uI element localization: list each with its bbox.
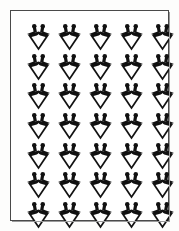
kite-diamond-ornament-icon: [57, 54, 82, 81]
kite-diamond-ornament-icon: [88, 24, 113, 51]
kite-diamond-ornament-icon: [150, 143, 175, 170]
kite-diamond-ornament-icon: [150, 83, 175, 110]
kite-diamond-ornament-icon: [26, 172, 51, 199]
motif-r4c5: [147, 112, 178, 142]
kite-diamond-ornament-icon: [57, 143, 82, 170]
motif-r7c2: [54, 200, 85, 230]
kite-diamond-ornament-icon: [88, 172, 113, 199]
kite-diamond-ornament-icon: [57, 24, 82, 51]
motif-r4c1: [23, 112, 54, 142]
kite-diamond-ornament-icon: [57, 202, 82, 229]
kite-diamond-ornament-icon: [88, 113, 113, 140]
kite-diamond-ornament-icon: [119, 143, 144, 170]
kite-diamond-ornament-icon: [26, 202, 51, 229]
motif-r2c1: [23, 53, 54, 83]
motif-r3c2: [54, 82, 85, 112]
motif-r5c5: [147, 141, 178, 171]
kite-diamond-ornament-icon: [26, 83, 51, 110]
plate-border: [10, 10, 169, 221]
motif-r6c3: [85, 171, 116, 201]
motif-r6c4: [116, 171, 147, 201]
kite-diamond-ornament-icon: [88, 143, 113, 170]
artwork-canvas: [0, 0, 179, 231]
kite-diamond-ornament-icon: [119, 83, 144, 110]
kite-diamond-ornament-icon: [150, 113, 175, 140]
motif-r6c2: [54, 171, 85, 201]
kite-diamond-ornament-icon: [119, 54, 144, 81]
motif-r7c5: [147, 200, 178, 230]
motif-r7c4: [116, 200, 147, 230]
kite-diamond-ornament-icon: [26, 143, 51, 170]
kite-diamond-ornament-icon: [119, 202, 144, 229]
kite-diamond-ornament-icon: [150, 54, 175, 81]
motif-r4c3: [85, 112, 116, 142]
motif-r4c2: [54, 112, 85, 142]
motif-r1c5: [147, 23, 178, 53]
motif-r7c3: [85, 200, 116, 230]
kite-diamond-ornament-icon: [88, 83, 113, 110]
motif-r2c3: [85, 53, 116, 83]
kite-diamond-ornament-icon: [57, 172, 82, 199]
kite-diamond-ornament-icon: [26, 24, 51, 51]
kite-diamond-ornament-icon: [150, 202, 175, 229]
motif-r6c1: [23, 171, 54, 201]
kite-diamond-ornament-icon: [150, 24, 175, 51]
motif-r3c5: [147, 82, 178, 112]
motif-r1c3: [85, 23, 116, 53]
motif-r7c1: [23, 200, 54, 230]
kite-diamond-ornament-icon: [150, 172, 175, 199]
motif-r2c5: [147, 53, 178, 83]
motif-r1c4: [116, 23, 147, 53]
kite-diamond-ornament-icon: [26, 113, 51, 140]
kite-diamond-ornament-icon: [57, 113, 82, 140]
motif-r5c3: [85, 141, 116, 171]
kite-diamond-ornament-icon: [88, 54, 113, 81]
kite-diamond-ornament-icon: [119, 24, 144, 51]
motif-r2c2: [54, 53, 85, 83]
kite-diamond-ornament-icon: [88, 202, 113, 229]
motif-r6c5: [147, 171, 178, 201]
motif-grid: [23, 23, 178, 230]
motif-r5c1: [23, 141, 54, 171]
motif-r1c2: [54, 23, 85, 53]
motif-r3c3: [85, 82, 116, 112]
kite-diamond-ornament-icon: [26, 54, 51, 81]
motif-r1c1: [23, 23, 54, 53]
kite-diamond-ornament-icon: [57, 83, 82, 110]
motif-r3c1: [23, 82, 54, 112]
kite-diamond-ornament-icon: [119, 113, 144, 140]
kite-diamond-ornament-icon: [119, 172, 144, 199]
motif-r4c4: [116, 112, 147, 142]
motif-r2c4: [116, 53, 147, 83]
motif-r3c4: [116, 82, 147, 112]
motif-r5c2: [54, 141, 85, 171]
motif-r5c4: [116, 141, 147, 171]
